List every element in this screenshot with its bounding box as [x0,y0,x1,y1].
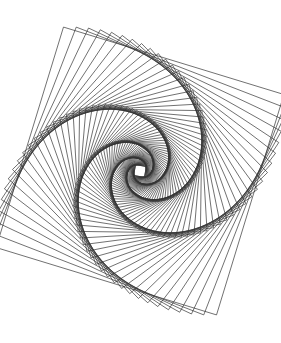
whirling-squares-spiral-svg [0,0,281,343]
spiral-figure-canvas [0,0,281,343]
